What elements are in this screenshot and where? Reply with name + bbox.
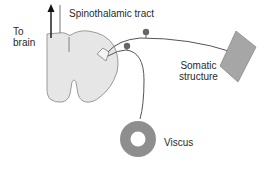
visceral-ganglion-dot: [124, 43, 130, 49]
viscus-lumen: [131, 132, 146, 147]
somatic-structure-shape: [220, 31, 256, 82]
viscus-label: Viscus: [164, 137, 193, 148]
referred-pain-diagram: [0, 0, 274, 170]
arrow-up-icon: [48, 4, 55, 12]
spinal-cord: [47, 31, 118, 102]
somatic-ganglion-dot: [143, 29, 149, 35]
somatic-structure-label: Somatic structure: [179, 60, 218, 82]
spinothalamic-tract-label: Spinothalamic tract: [69, 8, 154, 19]
to-brain-label: To brain: [13, 26, 35, 48]
